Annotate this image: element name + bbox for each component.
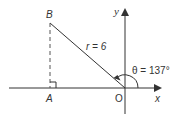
origin-label: O (115, 93, 123, 104)
radius-label: r = 6 (86, 41, 107, 52)
radius-line-OB (50, 23, 125, 88)
point-B-label: B (46, 9, 53, 20)
point-A-label: A (45, 93, 53, 104)
angle-arc (116, 75, 139, 88)
y-axis-label: y (113, 5, 119, 17)
angle-label: θ = 137° (132, 65, 170, 76)
right-angle-marker (50, 82, 56, 88)
x-axis-label: x (154, 93, 161, 104)
diagram-canvas: B A O x y r = 6 θ = 137° (0, 0, 176, 120)
